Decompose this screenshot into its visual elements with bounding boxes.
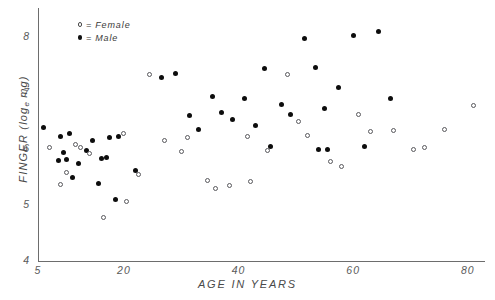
data-point-female <box>101 215 106 220</box>
data-point-female <box>213 186 218 191</box>
data-point-female <box>136 172 141 177</box>
data-point-female <box>471 103 476 108</box>
data-point-male <box>316 147 321 152</box>
y-axis-title-main: FINGER (log <box>17 107 29 183</box>
y-axis-title: FINGER (loge mg) <box>17 49 31 209</box>
data-point-male <box>253 123 258 128</box>
data-point-female <box>87 151 92 156</box>
data-point-female <box>422 145 427 150</box>
data-point-female <box>58 182 63 187</box>
data-point-female <box>124 199 129 204</box>
scatter-chart: 45678 520406080 FINGER (loge mg) AGE IN … <box>0 0 495 300</box>
x-axis-title: AGE IN YEARS <box>0 278 495 290</box>
data-point-male <box>173 71 178 76</box>
data-point-male <box>336 85 341 90</box>
data-point-male <box>376 29 381 34</box>
data-point-male <box>41 125 46 130</box>
data-point-male <box>230 117 235 122</box>
data-point-male <box>388 96 393 101</box>
data-point-male <box>242 96 247 101</box>
open-circle-icon <box>74 22 86 27</box>
x-tick-label-80: 80 <box>453 264 483 276</box>
data-point-female <box>339 164 344 169</box>
data-point-male <box>56 158 61 163</box>
data-point-female <box>248 179 253 184</box>
data-point-male <box>325 147 330 152</box>
data-point-female <box>121 131 126 136</box>
data-point-male <box>70 175 75 180</box>
x-axis-line <box>38 261 485 262</box>
data-point-female <box>78 145 83 150</box>
y-tick-label-8: 8 <box>8 30 30 42</box>
filled-circle-icon <box>74 35 86 40</box>
data-point-male <box>288 112 293 117</box>
data-point-male <box>64 157 69 162</box>
data-point-female <box>147 72 152 77</box>
data-point-male <box>219 110 224 115</box>
data-point-male <box>302 36 307 41</box>
data-point-female <box>227 183 232 188</box>
data-point-male <box>279 102 284 107</box>
x-tick-label-20: 20 <box>109 264 139 276</box>
data-point-female <box>411 147 416 152</box>
data-point-male <box>99 156 104 161</box>
data-point-female <box>305 133 310 138</box>
x-tick-label-60: 60 <box>338 264 368 276</box>
data-point-female <box>179 149 184 154</box>
data-point-male <box>313 65 318 70</box>
data-point-female <box>47 145 52 150</box>
data-point-male <box>262 66 267 71</box>
data-point-female <box>73 142 78 147</box>
y-axis-line <box>38 8 39 262</box>
data-point-female <box>245 134 250 139</box>
y-axis-title-subscript: e <box>22 102 31 106</box>
data-point-male <box>107 135 112 140</box>
x-tick-label-5: 5 <box>23 264 53 276</box>
data-point-female <box>205 178 210 183</box>
chart-legend: =Female=Male <box>74 18 131 44</box>
data-point-male <box>196 127 201 132</box>
legend-item-female: =Female <box>74 18 131 31</box>
data-point-male <box>67 131 72 136</box>
data-point-female <box>391 128 396 133</box>
data-point-male <box>159 75 164 80</box>
data-point-male <box>210 94 215 99</box>
data-point-male <box>96 181 101 186</box>
data-point-male <box>187 113 192 118</box>
y-axis-title-tail: mg) <box>17 75 29 102</box>
data-point-male <box>362 144 367 149</box>
data-point-male <box>61 150 66 155</box>
data-point-female <box>356 112 361 117</box>
data-point-female <box>296 119 301 124</box>
data-point-female <box>185 135 190 140</box>
data-point-male <box>351 33 356 38</box>
data-point-female <box>64 170 69 175</box>
data-point-male <box>90 138 95 143</box>
legend-separator: = <box>86 20 92 30</box>
data-point-female <box>285 72 290 77</box>
data-point-male <box>322 106 327 111</box>
legend-label: Male <box>95 33 118 43</box>
data-point-female <box>265 148 270 153</box>
data-point-female <box>328 159 333 164</box>
legend-label: Female <box>95 20 130 30</box>
x-tick-label-40: 40 <box>224 264 254 276</box>
data-point-male <box>104 155 109 160</box>
legend-item-male: =Male <box>74 31 131 44</box>
data-point-female <box>368 129 373 134</box>
data-point-male <box>116 134 121 139</box>
legend-separator: = <box>86 33 92 43</box>
data-point-male <box>76 161 81 166</box>
data-point-male <box>113 197 118 202</box>
data-point-female <box>442 127 447 132</box>
data-point-male <box>58 134 63 139</box>
data-point-female <box>162 138 167 143</box>
